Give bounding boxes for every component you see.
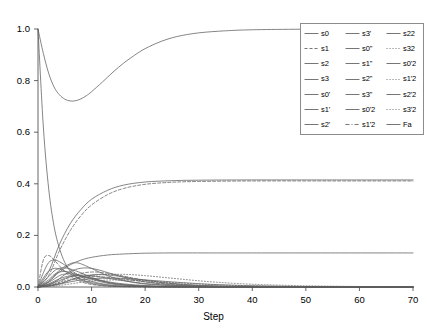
legend-line-swatch [304, 91, 319, 98]
legend-line-swatch [386, 121, 401, 128]
legend-item: s32 [386, 41, 425, 56]
legend-item-label: s0 [321, 30, 329, 38]
x-axis-tick-label: 0 [23, 294, 53, 305]
legend-item-label: s0'' [362, 45, 372, 53]
legend-item-label: s2 [321, 60, 329, 68]
legend-item-label: s0'2 [403, 60, 416, 68]
legend-line-swatch [304, 30, 319, 37]
y-axis-tick-label: 0.0 [2, 281, 30, 292]
legend-line-swatch [304, 121, 319, 128]
legend-line-swatch [345, 91, 360, 98]
legend-item-label: s3' [362, 30, 371, 38]
legend-item: s1' [304, 102, 345, 117]
legend-item: s2'' [345, 72, 386, 87]
legend-line-swatch [345, 60, 360, 67]
line-chart: 0.00.20.40.60.81.0 010203040506070 Step … [0, 0, 427, 335]
legend-item-label: s32 [403, 45, 415, 53]
legend-item-label: s1 [321, 45, 329, 53]
legend-line-swatch [304, 45, 319, 52]
legend-item-label: s3 [321, 75, 329, 83]
legend-item: s3' [345, 26, 386, 41]
x-axis-title: Step [0, 311, 427, 322]
legend-item-label: s2'' [362, 75, 372, 83]
legend-item-label: Fa [403, 121, 412, 129]
legend-item: s2 [304, 56, 345, 71]
y-axis-tick-label: 0.6 [2, 126, 30, 137]
legend-item: s3'' [345, 87, 386, 102]
legend-item-label: s1'2 [403, 75, 416, 83]
legend-line-swatch [304, 106, 319, 113]
legend-item-label: s3'' [362, 91, 372, 99]
legend-line-swatch [386, 76, 401, 83]
legend-item: s0' [304, 87, 345, 102]
x-axis-tick-label: 50 [291, 294, 321, 305]
legend-line-swatch [304, 76, 319, 83]
x-axis-tick-label: 70 [398, 294, 427, 305]
x-axis-tick-label: 10 [77, 294, 107, 305]
series-line [38, 180, 413, 287]
x-axis-tick-label: 60 [344, 294, 374, 305]
legend-line-swatch [386, 91, 401, 98]
x-axis-tick-label: 40 [237, 294, 267, 305]
legend-line-swatch [386, 30, 401, 37]
legend-item: s2' [304, 117, 345, 132]
legend-item: s1'2 [386, 72, 425, 87]
y-axis-tick-label: 1.0 [2, 23, 30, 34]
legend-item-label: s3'2 [403, 106, 416, 114]
legend-item-label: s1' [321, 106, 330, 114]
legend-line-swatch [386, 106, 401, 113]
legend-item-label: s22 [403, 30, 415, 38]
legend-item-label: s2'2 [403, 91, 416, 99]
legend-item-label: s2' [321, 121, 330, 129]
y-axis-tick-label: 0.8 [2, 75, 30, 86]
y-axis-tick-label: 0.4 [2, 178, 30, 189]
legend-line-swatch [345, 106, 360, 113]
legend-item: s1'2 [345, 117, 386, 132]
legend-line-swatch [386, 45, 401, 52]
y-axis-tick-label: 0.2 [2, 229, 30, 240]
legend-line-swatch [345, 76, 360, 83]
legend-item-label: s1'2 [362, 121, 375, 129]
legend-item-label: s0'2 [362, 106, 375, 114]
legend-line-swatch [304, 60, 319, 67]
legend: s0s3's22s1s0''s32s2s1''s0'2s3s2''s1'2s0'… [300, 23, 424, 135]
legend-item: s0'2 [386, 56, 425, 71]
legend-item: s2'2 [386, 87, 425, 102]
legend-item: s3 [304, 72, 345, 87]
legend-item-label: s0' [321, 91, 330, 99]
legend-line-swatch [345, 121, 360, 128]
x-axis-tick-label: 30 [184, 294, 214, 305]
legend-item: s1'' [345, 56, 386, 71]
legend-item: s0'' [345, 41, 386, 56]
legend-item: Fa [386, 117, 425, 132]
series-line [38, 181, 413, 287]
legend-item: s0 [304, 26, 345, 41]
legend-grid: s0s3's22s1s0''s32s2s1''s0'2s3s2''s1'2s0'… [304, 26, 421, 132]
legend-item: s0'2 [345, 102, 386, 117]
legend-item-label: s1'' [362, 60, 372, 68]
legend-item: s1 [304, 41, 345, 56]
legend-line-swatch [386, 60, 401, 67]
legend-item: s3'2 [386, 102, 425, 117]
legend-line-swatch [345, 30, 360, 37]
x-axis-tick-label: 20 [130, 294, 160, 305]
legend-item: s22 [386, 26, 425, 41]
legend-line-swatch [345, 45, 360, 52]
